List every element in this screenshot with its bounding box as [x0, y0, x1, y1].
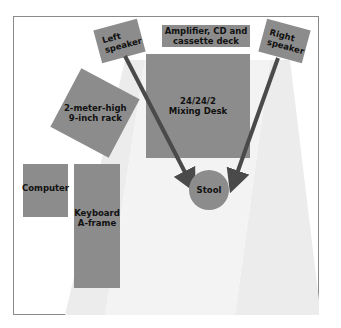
arrows-layer	[0, 0, 341, 328]
left-speaker-arrow	[125, 56, 190, 182]
stool: Stool	[189, 170, 229, 210]
stool-label: Stool	[197, 185, 222, 195]
right-speaker-arrow	[234, 58, 278, 182]
